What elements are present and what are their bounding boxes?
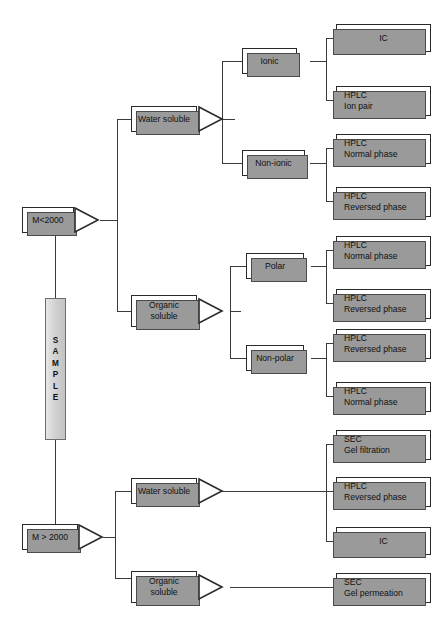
leaf-hplc-normal-phase-2-line2: Normal phase — [337, 251, 430, 262]
sample-letter-4: L — [53, 381, 58, 393]
arrow-water-soluble-low — [198, 106, 224, 132]
arrow-organic-soluble-low — [198, 298, 224, 324]
leaf-hplc-reversed-phase-2-line1: HPLC — [337, 293, 430, 304]
connector-organichigh-stem — [230, 587, 336, 588]
arrow-organic-soluble-high — [198, 574, 224, 600]
leaf-hplc-reversed-phase-3-line2: Reversed phase — [337, 344, 430, 355]
connector-polar-bus — [326, 250, 327, 303]
leaf-hplc-normal-phase-3-line2: Normal phase — [337, 397, 430, 408]
leaf-sec-gel-permeation-line2: Gel permeation — [337, 588, 430, 599]
sample-root-node: S A M P L E — [45, 298, 66, 440]
connector-mwhigh-to-organic — [115, 578, 131, 579]
leaf-sec-gel-filtration-line2: Gel filtration — [337, 445, 430, 456]
node-water-soluble-high[interactable]: Water soluble — [131, 478, 197, 504]
node-ionic-label: Ionic — [243, 56, 296, 67]
leaf-hplc-ion-pair[interactable]: HPLC Ion pair — [336, 86, 431, 116]
node-polar-label: Polar — [247, 261, 303, 272]
connector-ionic-bus — [326, 38, 327, 100]
connector-nonionic-bus — [326, 148, 327, 201]
connector-sample-to-mw-high — [55, 440, 56, 526]
leaf-ic-top-line1: IC — [337, 33, 430, 44]
connector-sample-to-mw-low — [55, 236, 56, 298]
leaf-hplc-normal-phase-1[interactable]: HPLC Normal phase — [336, 134, 431, 164]
node-mw-high-label: M > 2000 — [23, 532, 77, 543]
leaf-hplc-normal-phase-2-line1: HPLC — [337, 240, 430, 251]
node-ionic[interactable]: Ionic — [242, 48, 297, 74]
leaf-hplc-normal-phase-3-line1: HPLC — [337, 386, 430, 397]
leaf-hplc-reversed-phase-3[interactable]: HPLC Reversed phase — [336, 329, 431, 359]
leaf-hplc-normal-phase-1-line2: Normal phase — [337, 149, 430, 160]
leaf-hplc-ion-pair-line2: Ion pair — [337, 101, 430, 112]
leaf-hplc-normal-phase-1-line1: HPLC — [337, 138, 430, 149]
leaf-hplc-reversed-phase-1[interactable]: HPLC Reversed phase — [336, 187, 431, 217]
node-organic-soluble-low-label-2: soluble — [132, 311, 196, 322]
connector-waterhigh-stem — [222, 491, 326, 492]
connector-mwlow-to-water — [117, 119, 131, 120]
sample-letter-5: E — [53, 392, 58, 404]
node-polar[interactable]: Polar — [246, 253, 304, 279]
node-non-ionic-label: Non-ionic — [243, 158, 304, 169]
node-organic-soluble-high[interactable]: Organic soluble — [131, 571, 197, 603]
arrow-water-soluble-high — [198, 478, 224, 504]
node-mw-low-label: M<2000 — [23, 215, 73, 226]
leaf-ic-bottom[interactable]: IC — [336, 527, 431, 555]
connector-water-to-nonionic — [222, 163, 242, 164]
leaf-hplc-reversed-phase-3-line1: HPLC — [337, 333, 430, 344]
sample-letter-3: P — [53, 369, 58, 381]
leaf-hplc-reversed-phase-4-line1: HPLC — [337, 481, 430, 492]
connector-nonionic-stem — [310, 163, 326, 164]
connector-mwhigh-bus — [115, 491, 116, 578]
connector-mwlow-to-organic — [117, 311, 131, 312]
connector-water-to-ionic — [222, 61, 242, 62]
node-non-polar-label: Non-polar — [247, 353, 303, 364]
connector-nonpolar-bus — [326, 343, 327, 396]
node-water-soluble-low-label: Water soluble — [132, 114, 196, 125]
connector-ionic-stem — [310, 61, 326, 62]
connector-nonpolar-stem — [311, 358, 326, 359]
node-organic-soluble-low[interactable]: Organic soluble — [131, 295, 197, 327]
leaf-hplc-reversed-phase-2-line2: Reversed phase — [337, 304, 430, 315]
leaf-ic-top[interactable]: IC — [336, 24, 431, 52]
flowchart-canvas: S A M P L E M<2000 M > 2000 Water solubl… — [0, 0, 441, 617]
leaf-hplc-reversed-phase-1-line2: Reversed phase — [337, 202, 430, 213]
node-water-soluble-low[interactable]: Water soluble — [131, 106, 197, 132]
arrow-mw-high — [78, 524, 104, 550]
connector-organiclow-stem — [230, 311, 241, 312]
connector-mwhigh-to-water — [115, 491, 131, 492]
sample-letter-0: S — [53, 335, 58, 347]
leaf-hplc-ion-pair-line1: HPLC — [337, 90, 430, 101]
leaf-sec-gel-permeation[interactable]: SEC Gel permeation — [336, 573, 431, 603]
connector-mwlow-stem — [100, 220, 117, 221]
node-organic-soluble-high-label-2: soluble — [132, 587, 196, 598]
leaf-hplc-normal-phase-3[interactable]: HPLC Normal phase — [336, 382, 431, 412]
connector-polar-stem — [311, 266, 326, 267]
node-water-soluble-high-label: Water soluble — [132, 486, 196, 497]
connector-organiclow-to-nonpolar — [230, 358, 246, 359]
connector-mwhigh-stem — [103, 537, 115, 538]
leaf-hplc-reversed-phase-4-line2: Reversed phase — [337, 492, 430, 503]
leaf-sec-gel-filtration-line1: SEC — [337, 434, 430, 445]
node-mw-high[interactable]: M > 2000 — [22, 524, 78, 550]
sample-letter-1: A — [53, 346, 59, 358]
node-non-ionic[interactable]: Non-ionic — [242, 150, 305, 176]
connector-mwlow-bus — [117, 119, 118, 311]
connector-organiclow-bus — [230, 266, 231, 358]
node-organic-soluble-low-label-1: Organic — [132, 300, 196, 311]
node-organic-soluble-high-label-1: Organic — [132, 576, 196, 587]
arrow-mw-low — [74, 207, 100, 233]
leaf-sec-gel-permeation-line1: SEC — [337, 577, 430, 588]
leaf-hplc-reversed-phase-2[interactable]: HPLC Reversed phase — [336, 289, 431, 319]
node-non-polar[interactable]: Non-polar — [246, 345, 304, 371]
connector-organiclow-to-polar — [230, 266, 246, 267]
node-mw-low[interactable]: M<2000 — [22, 207, 74, 233]
leaf-hplc-reversed-phase-1-line1: HPLC — [337, 191, 430, 202]
leaf-sec-gel-filtration[interactable]: SEC Gel filtration — [336, 430, 431, 460]
leaf-hplc-normal-phase-2[interactable]: HPLC Normal phase — [336, 236, 431, 266]
sample-letter-2: M — [52, 358, 59, 370]
leaf-hplc-reversed-phase-4[interactable]: HPLC Reversed phase — [336, 477, 431, 507]
connector-waterhigh-bus — [326, 444, 327, 541]
leaf-ic-bottom-line1: IC — [337, 536, 430, 547]
